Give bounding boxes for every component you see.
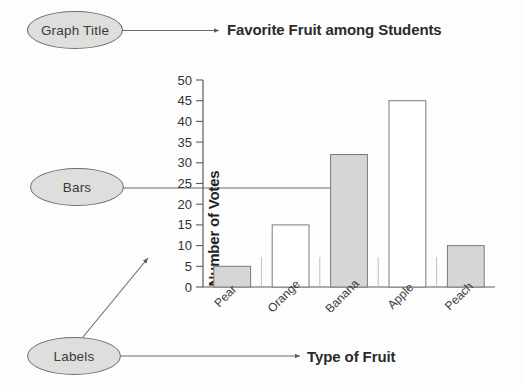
y-tick-label: 40 xyxy=(178,114,192,129)
y-tick-label: 10 xyxy=(178,238,192,253)
y-tick-label: 35 xyxy=(178,135,192,150)
bar-chart: 05101520253035404550 PearOrangeBananaApp… xyxy=(173,72,503,312)
y-axis-title-wrapper: Number of Votes xyxy=(140,100,166,280)
y-tick-label: 20 xyxy=(178,197,192,212)
chart-annotation-diagram: Graph Title Bars Labels Favorite Fruit a… xyxy=(0,0,523,385)
callout-bars[interactable]: Bars xyxy=(30,168,124,206)
chart-title: Favorite Fruit among Students xyxy=(227,21,442,38)
x-axis-title: Type of Fruit xyxy=(307,348,395,365)
bar[interactable] xyxy=(272,225,309,287)
y-tick-label: 5 xyxy=(185,259,192,274)
bar-group xyxy=(214,101,484,287)
bar-chart-svg: 05101520253035404550 PearOrangeBananaApp… xyxy=(173,72,503,312)
y-tick-label: 30 xyxy=(178,155,192,170)
y-tick-group: 05101520253035404550 xyxy=(178,73,203,295)
y-tick-label: 50 xyxy=(178,73,192,88)
bar[interactable] xyxy=(389,101,426,287)
callout-graph-title[interactable]: Graph Title xyxy=(27,11,123,49)
bar[interactable] xyxy=(331,155,368,287)
y-tick-label: 45 xyxy=(178,93,192,108)
connector-labels-y xyxy=(83,258,148,337)
y-tick-label: 0 xyxy=(185,280,192,295)
bar[interactable] xyxy=(214,266,251,287)
callout-labels[interactable]: Labels xyxy=(27,337,121,375)
y-tick-label: 15 xyxy=(178,217,192,232)
y-tick-label: 25 xyxy=(178,176,192,191)
